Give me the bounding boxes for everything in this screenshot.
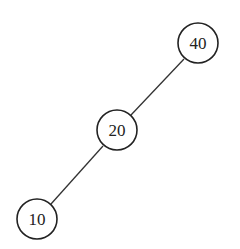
binary-tree-diagram: 40 20 10 bbox=[0, 0, 240, 249]
node-40-label: 40 bbox=[190, 34, 207, 53]
edge-40-20 bbox=[131, 59, 184, 115]
node-10-label: 10 bbox=[29, 210, 46, 229]
node-20: 20 bbox=[97, 110, 137, 150]
node-10: 10 bbox=[17, 199, 57, 239]
edge-20-10 bbox=[51, 146, 103, 204]
node-40: 40 bbox=[178, 23, 218, 63]
node-20-label: 20 bbox=[109, 121, 126, 140]
